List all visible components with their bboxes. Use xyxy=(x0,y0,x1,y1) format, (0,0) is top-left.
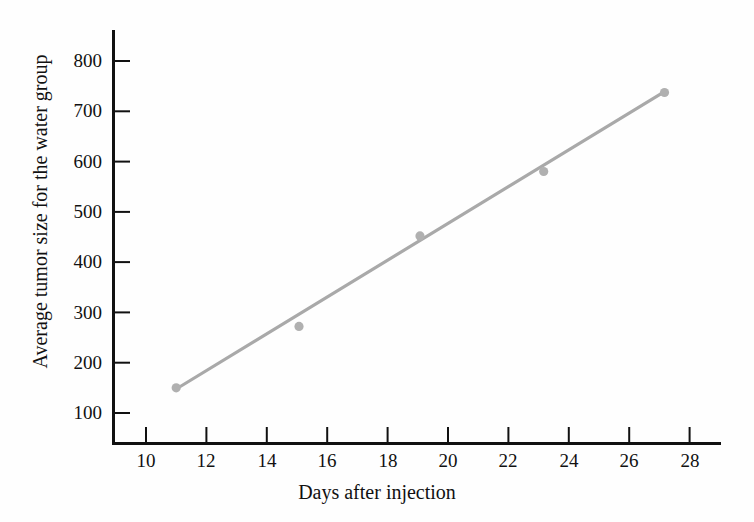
x-tick-label: 28 xyxy=(670,450,710,472)
x-axis-ticks xyxy=(146,427,690,442)
data-point xyxy=(539,167,548,176)
x-tick-label: 22 xyxy=(488,450,528,472)
data-point xyxy=(660,88,669,97)
y-axis-ticks xyxy=(115,61,130,413)
x-tick-label: 14 xyxy=(247,450,287,472)
y-axis-title: Average tumor size for the water group xyxy=(29,2,52,422)
y-axis-title-container: Average tumor size for the water group xyxy=(0,0,62,450)
plot-canvas xyxy=(0,0,754,522)
x-tick-label: 20 xyxy=(428,450,468,472)
data-point xyxy=(294,322,303,331)
chart-figure: 800 700 600 500 400 300 200 100 10 12 14… xyxy=(0,0,754,522)
x-axis-title: Days after injection xyxy=(0,481,754,504)
x-tick-label: 16 xyxy=(307,450,347,472)
data-point xyxy=(415,231,424,240)
x-tick-label: 18 xyxy=(368,450,408,472)
x-tick-label: 24 xyxy=(549,450,589,472)
x-tick-label: 26 xyxy=(609,450,649,472)
x-tick-label: 10 xyxy=(126,450,166,472)
x-tick-label: 12 xyxy=(186,450,226,472)
data-layer xyxy=(172,88,670,393)
data-point xyxy=(172,383,181,392)
